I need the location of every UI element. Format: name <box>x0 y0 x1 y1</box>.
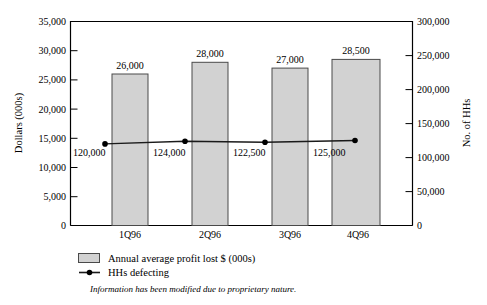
y2-tick-label-100000: 100,000 <box>417 152 450 163</box>
chart-footnote: Information has been modified due to pro… <box>89 284 296 294</box>
hhs-value-label-3q96: 122,500 <box>233 147 266 158</box>
y-axis-left-title: Dollars (000s) <box>13 92 25 153</box>
chart-legend: Annual average profit lost $ (000s) HHs … <box>79 253 256 278</box>
chart-container: 35,000 30,000 25,000 20,000 15,000 10,00… <box>0 0 487 305</box>
hhs-marker-1q96[interactable] <box>102 141 108 147</box>
legend-label-profit-lost: Annual average profit lost $ (000s) <box>108 253 256 265</box>
y2-tick-label-300000: 300,000 <box>417 16 450 27</box>
bar-3q96[interactable] <box>272 68 308 225</box>
y-tick-label-30000: 30,000 <box>39 45 67 56</box>
y2-tick-label-150000: 150,000 <box>417 118 450 129</box>
bar-2q96[interactable] <box>192 62 228 225</box>
y-axis-left-ticks: 35,000 30,000 25,000 20,000 15,000 10,00… <box>39 16 78 231</box>
x-axis-category-labels: 1Q96 2Q96 3Q96 4Q96 <box>119 229 369 240</box>
bar-value-label-1q96: 26,000 <box>116 60 144 71</box>
y-tick-label-20000: 20,000 <box>39 104 67 115</box>
bar-value-label-4q96: 28,500 <box>342 45 370 56</box>
x-label-1q96: 1Q96 <box>119 229 141 240</box>
y-axis-right-title: No. of HHs <box>461 99 472 148</box>
y-tick-label-5000: 5,000 <box>44 191 67 202</box>
legend-item-hhs-defecting[interactable]: HHs defecting <box>79 267 170 278</box>
x-label-2q96: 2Q96 <box>199 229 221 240</box>
hhs-value-label-1q96: 120,000 <box>73 147 106 158</box>
hhs-value-label-4q96: 125,000 <box>313 147 346 158</box>
chart-figure: 35,000 30,000 25,000 20,000 15,000 10,00… <box>0 0 487 305</box>
hhs-value-label-2q96: 124,000 <box>153 147 186 158</box>
y2-tick-label-50000: 50,000 <box>417 186 445 197</box>
hhs-marker-3q96[interactable] <box>262 139 268 145</box>
hhs-marker-2q96[interactable] <box>182 138 188 144</box>
y-tick-label-15000: 15,000 <box>39 133 67 144</box>
x-label-3q96: 3Q96 <box>279 229 301 240</box>
legend-swatch-icon <box>79 254 100 263</box>
y2-tick-label-200000: 200,000 <box>417 84 450 95</box>
y-tick-label-10000: 10,000 <box>39 162 67 173</box>
hhs-marker-4q96[interactable] <box>352 138 358 144</box>
bar-value-label-3q96: 27,000 <box>276 54 304 65</box>
x-label-4q96: 4Q96 <box>347 229 369 240</box>
legend-label-hhs-defecting: HHs defecting <box>108 267 170 278</box>
bar-1q96[interactable] <box>112 74 148 226</box>
y-tick-label-25000: 25,000 <box>39 74 67 85</box>
legend-dot-icon <box>87 270 93 276</box>
legend-item-profit-lost[interactable]: Annual average profit lost $ (000s) <box>79 253 256 265</box>
y-tick-label-0: 0 <box>61 220 66 231</box>
y2-tick-label-0: 0 <box>417 220 422 231</box>
y-tick-label-35000: 35,000 <box>39 16 67 27</box>
y2-tick-label-250000: 250,000 <box>417 50 450 61</box>
bar-value-label-2q96: 28,000 <box>196 48 224 59</box>
